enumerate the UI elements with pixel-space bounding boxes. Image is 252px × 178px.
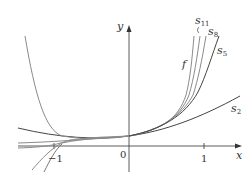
y-axis-label: y xyxy=(116,20,124,33)
label-s2: s2 xyxy=(231,102,241,116)
label-s5: s5 xyxy=(217,44,227,58)
curve-s11 xyxy=(129,36,200,136)
y-axis-arrow-icon xyxy=(127,25,132,32)
x-axis-arrow-icon xyxy=(235,144,242,149)
curve-s5 xyxy=(129,36,219,136)
label-f: f xyxy=(181,58,188,71)
tick-neg1-label: −1 xyxy=(48,153,63,164)
plot-canvas: y x 0 −1 1 f s11 s8 s5 s2 xyxy=(0,0,252,178)
s11-pointer-arrow-icon xyxy=(198,27,200,33)
curve-s-left-low1 xyxy=(32,136,129,170)
x-axis-label: x xyxy=(236,149,243,162)
curve-s8 xyxy=(129,36,206,136)
curve-f xyxy=(129,36,194,136)
label-s8: s8 xyxy=(208,25,218,39)
curve-s-left-high xyxy=(25,36,129,139)
tick-1-label: 1 xyxy=(201,153,207,164)
origin-label: 0 xyxy=(120,149,126,160)
